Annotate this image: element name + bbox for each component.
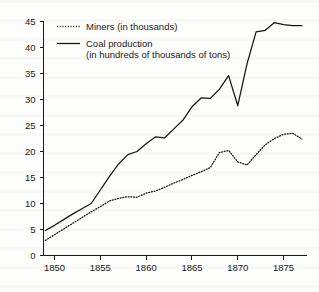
x-tick-label: 1855	[90, 262, 111, 273]
chart-legend: Miners (in thousands) Coal production (i…	[57, 21, 230, 60]
y-tick-label: 40	[25, 42, 36, 53]
y-tick-label: 0	[30, 250, 35, 261]
figure-page: 051015202530354045 185018551860186518701…	[0, 0, 319, 292]
x-tick-label: 1860	[136, 262, 157, 273]
series-miners-line	[45, 133, 302, 240]
y-tick-label: 10	[25, 198, 36, 209]
y-tick-label: 20	[25, 146, 36, 157]
legend-label-miners: Miners (in thousands)	[86, 21, 177, 32]
y-axis-tick-labels: 051015202530354045	[25, 16, 36, 261]
legend-label-coal-production: Coal production	[86, 38, 153, 49]
y-axis-ticks	[40, 22, 44, 256]
y-tick-label: 30	[25, 94, 36, 105]
y-tick-label: 5	[30, 224, 35, 235]
y-tick-label: 35	[25, 68, 36, 79]
x-tick-label: 1865	[181, 262, 202, 273]
y-tick-label: 25	[25, 120, 36, 131]
x-tick-label: 1870	[227, 262, 248, 273]
x-tick-label: 1875	[273, 262, 294, 273]
x-tick-label: 1850	[44, 262, 65, 273]
y-tick-label: 15	[25, 172, 36, 183]
legend-label-coal-production-units: (in hundreds of thousands of tons)	[86, 49, 230, 60]
y-tick-label: 45	[25, 16, 36, 27]
x-axis-ticks	[54, 256, 283, 260]
line-chart: 051015202530354045 185018551860186518701…	[0, 0, 319, 292]
x-axis-tick-labels: 185018551860186518701875	[44, 262, 294, 273]
